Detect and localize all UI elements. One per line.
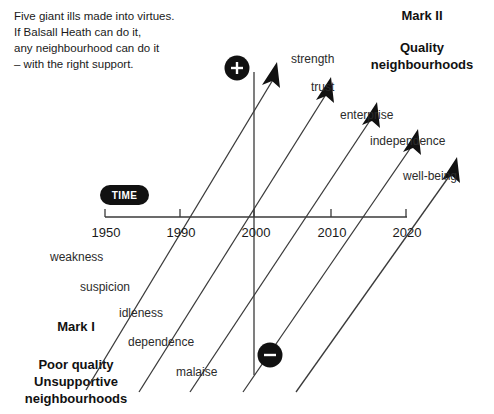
ill-label-malaise: malaise <box>176 365 218 379</box>
mark-one-subline-2: Unsupportive <box>34 374 118 389</box>
virtue-label-strength: strength <box>291 52 334 66</box>
intro-line-4: – with the right support. <box>14 58 134 70</box>
ill-label-weakness: weakness <box>49 250 103 264</box>
tick-label-1950: 1950 <box>92 225 121 240</box>
virtue-label-independence: independence <box>370 134 446 148</box>
mark-one-subline-1: Poor quality <box>38 357 114 372</box>
virtue-label-enterprise: enterprise <box>340 108 394 122</box>
tick-label-2000: 2000 <box>242 225 271 240</box>
time-badge: TIME <box>100 185 149 205</box>
intro-line-2: If Balsall Heath can do it, <box>14 26 141 38</box>
virtue-label-well-being: well-being <box>402 169 457 183</box>
balsall-heath-five-giant-ills-diagram: Five giant ills made into virtues. If Ba… <box>0 0 494 414</box>
mark-one-subline-3: neighbourhoods <box>25 391 128 406</box>
ill-label-suspicion: suspicion <box>80 280 130 294</box>
intro-line-1: Five giant ills made into virtues. <box>14 10 174 22</box>
intro-line-3: any neighbourhood can do it <box>14 42 160 54</box>
mark-two-subline-2: neighbourhoods <box>371 57 474 72</box>
time-badge-label: TIME <box>112 190 138 201</box>
tick-label-1990: 1990 <box>167 225 196 240</box>
virtue-label-trust: trust <box>311 80 335 94</box>
mark-two-subline-1: Quality <box>400 40 445 55</box>
mark-two-heading: Mark II <box>401 8 442 23</box>
ill-label-idleness: idleness <box>119 306 163 320</box>
tick-label-2010: 2010 <box>318 225 347 240</box>
minus-badge <box>258 343 283 368</box>
mark-one-heading: Mark I <box>57 319 95 334</box>
plus-badge <box>225 56 250 81</box>
tick-label-2020: 2020 <box>393 225 422 240</box>
ill-label-dependence: dependence <box>128 335 194 349</box>
